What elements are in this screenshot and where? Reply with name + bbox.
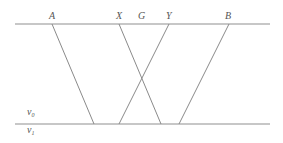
ray-from-A [52,24,94,124]
ray-from-B [179,24,229,124]
label-v1: v1 [27,124,34,136]
label-X: X [115,10,123,21]
label-v0-subscript: 0 [31,112,34,118]
ray-from-Y [119,24,169,124]
label-G: G [138,10,145,21]
ray-from-X [119,24,161,124]
diagram-canvas: A X G Y B v0 v1 [0,0,283,143]
label-Y: Y [166,10,173,21]
label-B: B [225,10,231,21]
label-A: A [48,10,56,21]
label-v1-subscript: 1 [31,130,34,136]
label-v0: v0 [27,106,34,118]
